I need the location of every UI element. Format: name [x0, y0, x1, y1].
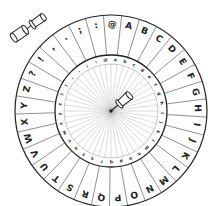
outer-ring-character: P: [114, 192, 122, 203]
outer-ring-character: M: [157, 174, 170, 187]
inner-ring-character: y: [57, 112, 62, 115]
outer-ring-character: !: [36, 55, 46, 64]
inner-ring-character: m: [143, 145, 150, 152]
outer-ring-character: ?: [27, 69, 38, 78]
inner-ring-character: i: [160, 112, 165, 114]
inner-ring-character: f: [153, 83, 158, 87]
outer-ring-character: U: [38, 161, 50, 173]
cipher-wheel: :@ABCDEFGHIJKLMNOPQRSTUVWXYZ?!,.; @abcde…: [0, 0, 208, 206]
inner-ring-character: o: [128, 156, 133, 162]
inner-ring-character: w: [61, 130, 67, 136]
outer-ring-character: W: [22, 132, 35, 145]
outer-ring-character: I: [192, 122, 202, 127]
outer-ring-character: G: [190, 87, 201, 96]
outer-ring-character: K: [179, 150, 192, 162]
outer-ring-character: S: [65, 182, 75, 194]
outer-ring-character: Q: [97, 192, 106, 203]
outer-ring-character: L: [170, 164, 181, 175]
outer-ring-character: D: [166, 43, 178, 55]
outer-ring-character: V: [29, 148, 41, 159]
outer-ring-character: A: [124, 20, 133, 31]
outer-ring-character: J: [187, 137, 198, 145]
inner-ring-character: @: [103, 57, 108, 62]
inner-ring-character: l: [150, 138, 155, 143]
inner-ring-character: n: [137, 151, 142, 157]
outer-ring-character: E: [177, 56, 189, 67]
loose-pin-icon: [9, 12, 48, 43]
outer-ring-character: B: [140, 25, 150, 37]
outer-ring-character: :: [93, 20, 98, 30]
inner-ring-character: b: [123, 59, 127, 65]
inner-ring-character: :: [94, 59, 97, 64]
outer-ring-character: @: [108, 19, 117, 29]
inner-ring-character: h: [159, 101, 164, 105]
cipher-wheel-illustration: :@ABCDEFGHIJKLMNOPQRSTUVWXYZ?!,.; @abcde…: [0, 0, 208, 206]
inner-ring-character: k: [155, 130, 161, 135]
outer-ring-character: T: [50, 172, 62, 184]
inner-ring-character: e: [147, 74, 153, 80]
inner-ring-character: u: [73, 146, 79, 152]
outer-ring-character: F: [185, 71, 197, 81]
outer-ring-character: X: [19, 118, 30, 126]
outer-ring-character: Y: [19, 101, 29, 110]
inner-ring-character: a: [114, 57, 117, 62]
inner-ring-character: x: [58, 121, 64, 125]
outer-ring-character: O: [129, 189, 139, 201]
outer-ring-character: .: [61, 32, 69, 42]
inner-ring-character: ,: [69, 75, 74, 80]
inner-ring-character: .: [77, 68, 82, 73]
inner-ring-character: ?: [59, 92, 65, 96]
inner-ring-character: j: [158, 120, 164, 124]
inner-ring-character: r: [99, 159, 103, 164]
outer-ring-character: R: [80, 188, 90, 200]
inner-ring-character: c: [132, 62, 137, 68]
inner-ring-character: p: [119, 159, 123, 165]
inner-ring-character: v: [66, 139, 72, 144]
outer-ring-character: ,: [47, 42, 56, 52]
inner-ring-character: d: [140, 67, 146, 73]
outer-ring-character: ;: [76, 24, 83, 35]
inner-ring-character: z: [57, 102, 62, 106]
outer-ring-character: C: [154, 33, 165, 45]
inner-ring-character: t: [81, 152, 85, 157]
outer-ring-character: N: [144, 183, 155, 195]
inner-ring-character: !: [63, 84, 68, 88]
inner-ring-character: s: [90, 156, 95, 162]
outer-ring-character: H: [193, 104, 203, 112]
inner-ring-character: q: [110, 160, 113, 165]
outer-ring-character: Z: [21, 84, 32, 93]
inner-ring-character: g: [157, 91, 163, 96]
inner-ring-character: ;: [85, 63, 89, 68]
